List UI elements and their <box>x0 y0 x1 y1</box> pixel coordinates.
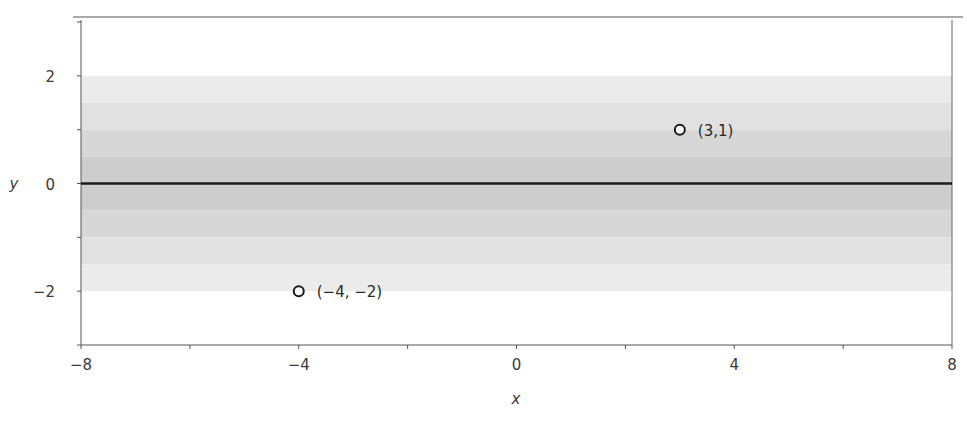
x-ticks: −8−4048 <box>70 345 957 374</box>
band <box>81 210 952 237</box>
point-label: (3,1) <box>698 122 734 140</box>
band <box>81 184 952 211</box>
x-tick-label: 8 <box>947 356 957 374</box>
point-marker <box>675 125 685 135</box>
band <box>81 76 952 103</box>
y-ticks: 20−2 <box>33 22 81 345</box>
y-tick-label: 0 <box>45 176 55 194</box>
band <box>81 237 952 264</box>
band <box>81 264 952 291</box>
x-tick-label: 4 <box>729 356 739 374</box>
y-tick-label: 2 <box>45 68 55 86</box>
point-label: (−4, −2) <box>317 283 382 301</box>
y-tick-label: −2 <box>33 283 55 301</box>
chart: −8−4048 20−2 (3,1)(−4, −2) x y <box>0 0 967 429</box>
band <box>81 130 952 157</box>
x-tick-label: −4 <box>288 356 310 374</box>
band <box>81 157 952 184</box>
band <box>81 103 952 130</box>
y-axis-label: y <box>9 175 20 193</box>
x-axis-label: x <box>511 390 521 408</box>
x-tick-label: −8 <box>70 356 92 374</box>
x-tick-label: 0 <box>512 356 522 374</box>
point-marker <box>294 286 304 296</box>
